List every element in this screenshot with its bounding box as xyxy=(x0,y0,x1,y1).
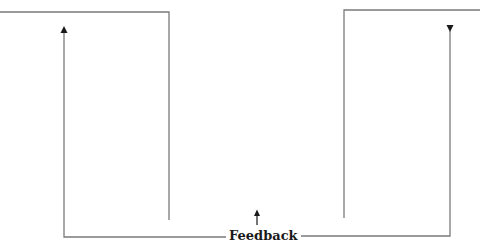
up-arrowhead-icon xyxy=(61,26,68,33)
feedback-diagram xyxy=(0,0,480,251)
right-frame-line xyxy=(344,10,480,218)
center-up-arrowhead-icon xyxy=(254,210,260,217)
left-frame-line xyxy=(0,12,169,220)
feedback-label: Feedback xyxy=(226,229,301,243)
right-feedback-line xyxy=(290,31,450,236)
down-arrowhead-icon xyxy=(447,25,454,32)
left-feedback-line xyxy=(64,32,228,237)
